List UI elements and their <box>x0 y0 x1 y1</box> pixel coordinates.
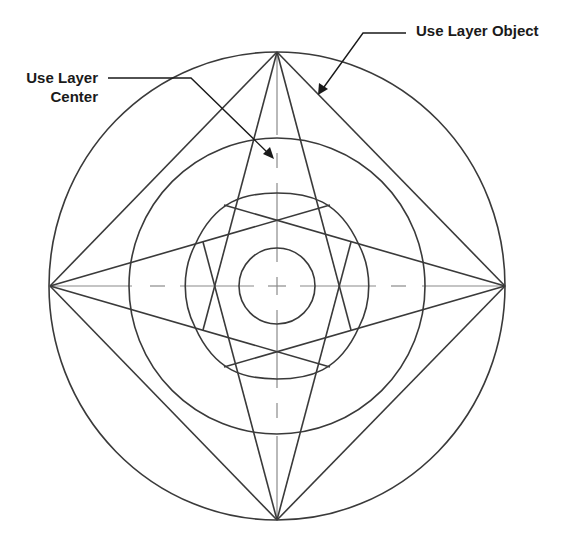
line-bottom-to-left <box>50 286 277 520</box>
line-bottom-tangent-left <box>203 242 277 520</box>
centerlines <box>50 52 505 520</box>
line-right-tangent-top <box>224 205 505 286</box>
line-bottom-tangent-right <box>277 242 351 520</box>
label-use-layer-center-line2: Center <box>24 87 98 106</box>
label-use-layer-object: Use Layer Object <box>416 21 539 40</box>
line-right-tangent-bottom <box>224 286 505 367</box>
arrowhead-layer-object-icon <box>318 83 328 95</box>
line-bottom-to-right <box>277 286 505 520</box>
line-left-tangent-top <box>50 205 330 286</box>
line-top-tangent-right <box>277 52 351 330</box>
label-use-layer-center: Use Layer Center <box>24 68 98 106</box>
label-use-layer-center-line1: Use Layer <box>24 68 98 87</box>
line-top-tangent-left <box>203 52 277 330</box>
line-left-tangent-bottom <box>50 286 330 367</box>
line-top-to-right <box>277 52 505 286</box>
